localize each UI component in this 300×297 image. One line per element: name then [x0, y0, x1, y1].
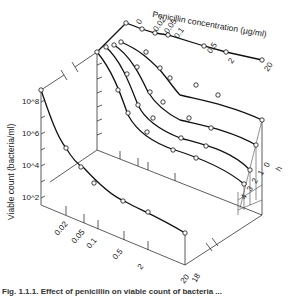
svg-text:10^8: 10^8 — [22, 97, 40, 106]
y-tick-labels: 10^8 10^6 10^4 10^2 — [22, 97, 40, 202]
x-ticks-back-floor — [120, 151, 175, 181]
svg-text:10^4: 10^4 — [22, 161, 40, 170]
svg-text:0: 0 — [134, 17, 144, 26]
svg-text:0.05: 0.05 — [70, 227, 87, 245]
svg-text:h: h — [274, 165, 284, 173]
svg-text:10^6: 10^6 — [22, 129, 40, 138]
svg-text:0.5: 0.5 — [111, 247, 125, 262]
series-4h — [95, 50, 246, 186]
svg-text:20: 20 — [262, 60, 275, 73]
x-tick-labels-bottom: 0.02 0.05 0.1 0.5 2 20 — [53, 219, 192, 285]
svg-text:18: 18 — [190, 271, 203, 284]
svg-text:10^2: 10^2 — [22, 193, 40, 202]
svg-text:1: 1 — [256, 168, 266, 177]
y-ticks-front — [41, 100, 45, 198]
svg-text:2: 2 — [250, 176, 260, 185]
svg-text:0.02: 0.02 — [53, 219, 70, 237]
svg-text:0.1: 0.1 — [85, 236, 99, 251]
svg-text:2: 2 — [226, 56, 236, 65]
figure-caption: Fig. 1.1.1. Effect of penicillin on viab… — [2, 287, 298, 297]
y-axis-title: Viable count (bacteria/ml) — [6, 124, 16, 220]
y-ticks-back — [97, 63, 102, 135]
chart-figure: 10^8 10^6 10^4 10^2 Viable count (bacter… — [0, 0, 300, 297]
svg-text:0: 0 — [262, 160, 272, 169]
svg-text:2: 2 — [136, 262, 146, 272]
